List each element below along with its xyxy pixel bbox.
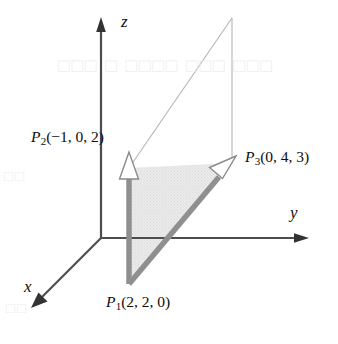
y-axis-label: y — [290, 204, 298, 221]
point-label-p2: P2(−1, 0, 2) — [31, 129, 104, 147]
point-label-p1-coords: (2, 2, 0) — [121, 293, 170, 310]
x-axis — [31, 238, 101, 308]
x-axis-label: x — [24, 278, 32, 295]
point-label-p3: P3(0, 4, 3) — [245, 149, 309, 167]
outline-parallelogram — [129, 18, 232, 168]
point-label-p2-coords: (−1, 0, 2) — [46, 128, 104, 145]
point-label-p3-coords: (0, 4, 3) — [260, 148, 309, 165]
figure-root: □□□ □ □□□□ □□□ □□□ □□ □□ z y x P2(−1, 0,… — [0, 0, 338, 344]
point-label-p1: P1(2, 2, 0) — [106, 294, 170, 312]
z-axis-label: z — [121, 13, 128, 30]
